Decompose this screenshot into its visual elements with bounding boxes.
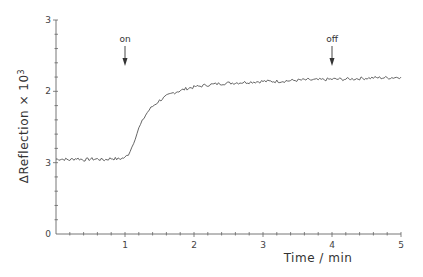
x-tick-label: 3 [260,240,266,250]
axes [56,20,401,234]
reflection-series-line [56,77,401,162]
annotation-on-label: on [119,34,130,44]
annotation-off-label: off [326,34,339,44]
reflection-chart: 123450323 onoff Time / min ∆Reflection ×… [0,0,423,277]
y-tick-label: 3 [45,15,51,25]
arrowhead-icon [123,58,128,66]
x-tick-label: 1 [122,240,128,250]
x-tick-label: 5 [398,240,404,250]
y-axis-title-exponent: 3 [17,69,26,75]
y-tick-label: 0 [45,229,51,239]
x-tick-label: 4 [329,240,335,250]
x-tick-label: 2 [191,240,197,250]
y-tick-label: 3 [45,158,51,168]
x-axis-title: Time / min [283,251,353,265]
y-axis-title-text: ∆Reflection × 10 [17,74,31,184]
annotations: onoff [119,34,338,66]
y-axis-title: ∆Reflection × 103 [17,69,32,184]
y-tick-label: 2 [45,86,51,96]
ticks: 123450323 [45,15,404,250]
arrowhead-icon [330,58,335,66]
